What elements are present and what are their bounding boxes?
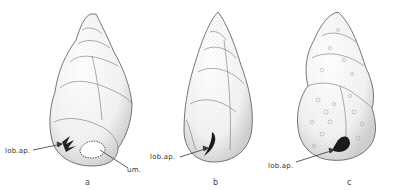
annotation-a-lob-ap: lob.ap. — [5, 147, 30, 155]
specimen-a — [50, 14, 132, 166]
annotation-c-lob-ap: lob.ap. — [268, 162, 293, 170]
annotation-a-um: um. — [127, 166, 141, 174]
specimen-c — [297, 12, 375, 160]
panel-label-b: b — [213, 178, 218, 187]
panel-label-a: a — [85, 178, 90, 187]
annotation-b-lob-ap: lob.ap. — [150, 153, 175, 161]
illustration-canvas — [0, 0, 400, 190]
panel-label-c: c — [347, 178, 351, 187]
specimen-b — [184, 12, 252, 162]
